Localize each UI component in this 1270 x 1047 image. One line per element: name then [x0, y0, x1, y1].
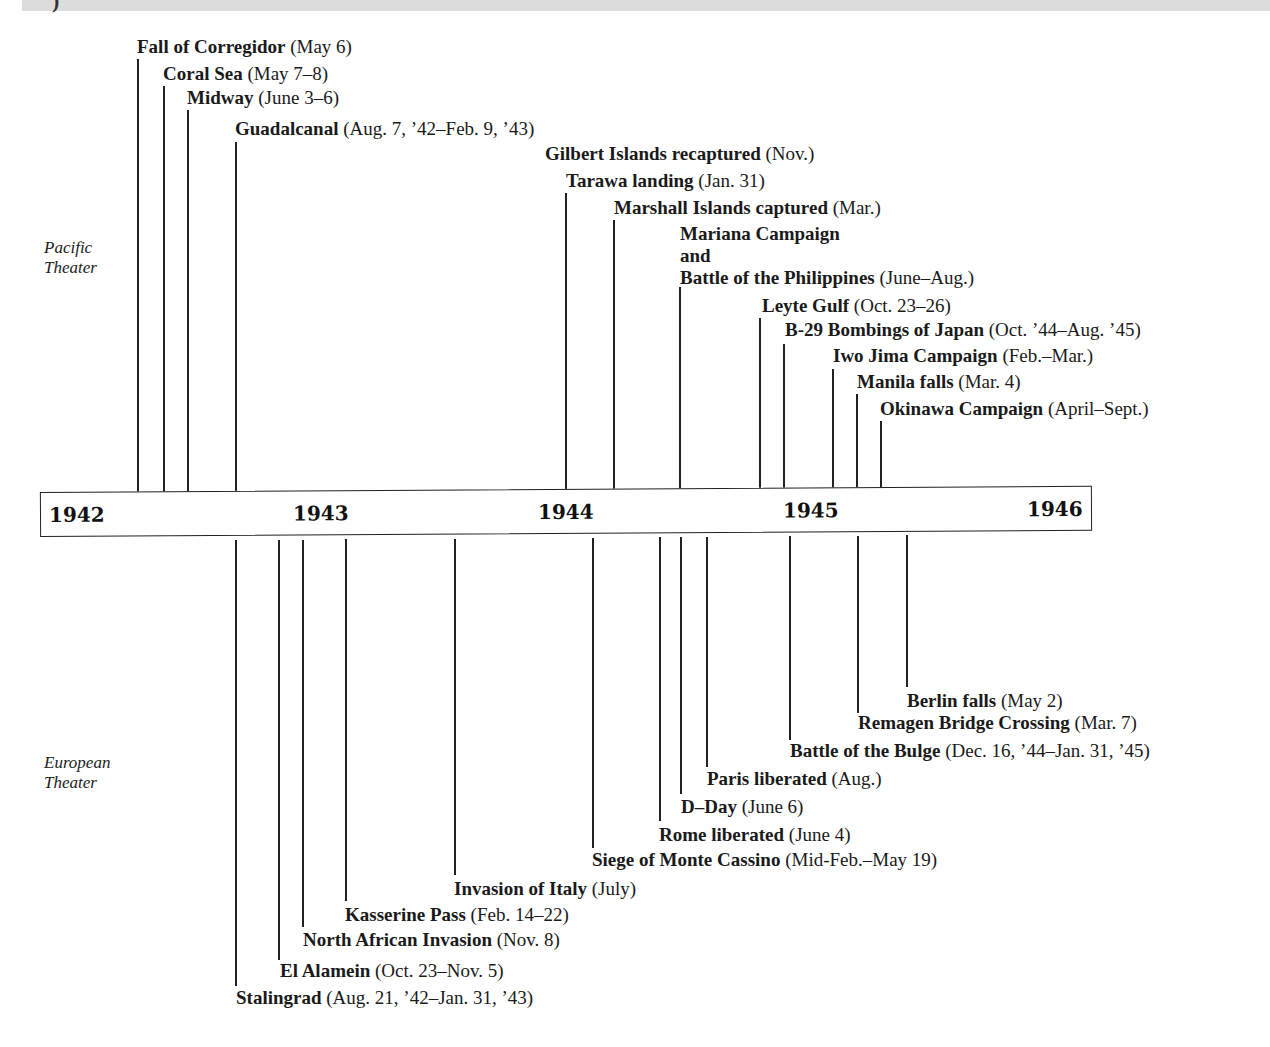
year-1945: 1945 [783, 498, 839, 522]
event-date: (Oct. ’44–Aug. ’45) [989, 319, 1141, 340]
event-name: Gilbert Islands recaptured [545, 143, 761, 164]
event-name: Fall of Corregidor [137, 36, 285, 57]
event-name: Rome liberated [659, 824, 784, 845]
event-date: (Nov. 8) [497, 929, 560, 950]
event-date: (Dec. 16, ’44–Jan. 31, ’45) [945, 740, 1150, 761]
connector-north-african-invasion [302, 540, 304, 927]
event-name: Marshall Islands captured [614, 197, 828, 218]
event-date: (May 7–8) [247, 63, 328, 84]
event-date: (Mid-Feb.–May 19) [785, 849, 937, 870]
event-date: (Oct. 23–26) [854, 295, 951, 316]
event-fall-of-corregidor: Fall of Corregidor (May 6) [137, 36, 352, 58]
european-theater-label-line2: Theater [44, 773, 110, 793]
connector-midway [187, 110, 189, 495]
event-date: (Aug.) [832, 768, 882, 789]
event-remagen-bridge: Remagen Bridge Crossing (Mar. 7) [858, 712, 1137, 734]
event-date: (Feb. 14–22) [471, 904, 569, 925]
connector-b29-bombings [783, 344, 785, 491]
event-date: (Jan. 31) [698, 170, 764, 191]
event-name: El Alamein [280, 960, 370, 981]
event-date: (April–Sept.) [1048, 398, 1149, 419]
event-name: D–Day [681, 796, 737, 817]
event-date: (June–Aug.) [880, 267, 974, 288]
event-name: Midway [187, 87, 254, 108]
event-name: Battle of the Philippines [680, 267, 875, 288]
connector-stalingrad [235, 540, 237, 986]
event-name: Berlin falls [907, 690, 996, 711]
connector-battle-of-the-bulge [789, 536, 791, 740]
event-name: Paris liberated [707, 768, 827, 789]
event-d-day: D–Day (June 6) [681, 796, 803, 818]
european-theater-label: European Theater [44, 753, 110, 793]
event-name: Kasserine Pass [345, 904, 466, 925]
event-date: (Feb.–Mar.) [1002, 345, 1093, 366]
event-guadalcanal: Guadalcanal (Aug. 7, ’42–Feb. 9, ’43) [235, 118, 534, 140]
event-name: Okinawa Campaign [880, 398, 1043, 419]
connector-fall-of-corregidor [137, 59, 139, 495]
event-rome-liberated: Rome liberated (June 4) [659, 824, 851, 846]
event-date: (Aug. 7, ’42–Feb. 9, ’43) [343, 118, 534, 139]
event-midway: Midway (June 3–6) [187, 87, 339, 109]
event-date: (May 2) [1001, 690, 1063, 711]
year-1946: 1946 [1027, 497, 1083, 521]
event-name: Siege of Monte Cassino [592, 849, 780, 870]
event-mariana-philippines: Mariana Campaign and Battle of the Phili… [680, 223, 974, 289]
connector-berlin-falls [906, 535, 908, 687]
event-name: B-29 Bombings of Japan [785, 319, 984, 340]
event-date: (July) [592, 878, 636, 899]
event-el-alamein: El Alamein (Oct. 23–Nov. 5) [280, 960, 504, 982]
connector-manila-falls [856, 394, 858, 491]
connector-d-day [680, 537, 682, 794]
header-fragment: ) [52, 0, 59, 14]
event-date: (Mar.) [833, 197, 881, 218]
event-marshall-islands: Marshall Islands captured (Mar.) [614, 197, 881, 219]
connector-okinawa [880, 421, 882, 491]
event-name: Remagen Bridge Crossing [858, 712, 1070, 733]
connector-coral-sea [163, 86, 165, 495]
connector-kasserine-pass [345, 539, 347, 901]
connector-leyte-gulf [759, 318, 761, 491]
connector-remagen-bridge [857, 536, 859, 713]
event-b29-bombings: B-29 Bombings of Japan (Oct. ’44–Aug. ’4… [785, 319, 1141, 341]
timeline-bar: 1942 1943 1944 1945 1946 [40, 486, 1092, 537]
event-berlin-falls: Berlin falls (May 2) [907, 690, 1063, 712]
event-name: Manila falls [857, 371, 954, 392]
connector-iwo-jima [832, 369, 834, 491]
event-name: Coral Sea [163, 63, 243, 84]
year-1942: 1942 [49, 503, 105, 527]
event-stalingrad: Stalingrad (Aug. 21, ’42–Jan. 31, ’43) [236, 987, 533, 1009]
event-name-line1: Mariana Campaign [680, 223, 974, 245]
event-monte-cassino: Siege of Monte Cassino (Mid-Feb.–May 19) [592, 849, 937, 871]
pacific-theater-label: Pacific Theater [44, 238, 97, 278]
connector-paris-liberated [706, 537, 708, 767]
event-manila-falls: Manila falls (Mar. 4) [857, 371, 1021, 393]
event-date: (Mar. 4) [958, 371, 1020, 392]
event-date: (June 6) [742, 796, 804, 817]
event-kasserine-pass: Kasserine Pass (Feb. 14–22) [345, 904, 569, 926]
connector-guadalcanal [235, 142, 237, 495]
connector-rome-liberated [659, 537, 661, 821]
pacific-theater-label-line1: Pacific [44, 238, 97, 258]
connector-tarawa-landing [565, 193, 567, 493]
event-tarawa-landing: Tarawa landing (Jan. 31) [566, 170, 765, 192]
event-name: North African Invasion [303, 929, 492, 950]
event-date: (Nov.) [765, 143, 814, 164]
pacific-theater-label-line2: Theater [44, 258, 97, 278]
connector-el-alamein [278, 540, 280, 960]
event-invasion-of-italy: Invasion of Italy (July) [454, 878, 636, 900]
year-1943: 1943 [293, 501, 349, 525]
event-iwo-jima: Iwo Jima Campaign (Feb.–Mar.) [833, 345, 1093, 367]
event-date: (Mar. 7) [1075, 712, 1137, 733]
event-name: Tarawa landing [566, 170, 694, 191]
year-1944: 1944 [538, 500, 594, 524]
event-date: (June 3–6) [258, 87, 339, 108]
top-page-band: ) [22, 0, 1270, 11]
event-date: (Oct. 23–Nov. 5) [375, 960, 504, 981]
event-date: (May 6) [290, 36, 352, 57]
event-name-line2: and [680, 245, 974, 267]
event-north-african-invasion: North African Invasion (Nov. 8) [303, 929, 560, 951]
event-battle-of-the-bulge: Battle of the Bulge (Dec. 16, ’44–Jan. 3… [790, 740, 1150, 762]
connector-monte-cassino [592, 538, 594, 848]
european-theater-label-line1: European [44, 753, 110, 773]
event-date: (June 4) [789, 824, 851, 845]
